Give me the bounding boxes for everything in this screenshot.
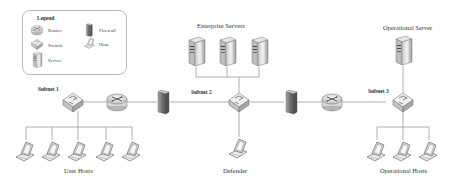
user-host-icon: [42, 142, 60, 161]
connection-lines: [26, 66, 429, 140]
subnet1-label: Subnet 1: [38, 86, 59, 92]
legend-box: Legend Router Switch Server Firewall Hos…: [22, 10, 127, 75]
user-host-icon: [68, 142, 86, 161]
server-icon: [33, 52, 42, 68]
firewall1-icon: [158, 90, 169, 114]
subnet3-label: Subnet 3: [368, 88, 389, 94]
enterprise-server-icon: [189, 37, 205, 66]
switch-icon: [32, 39, 43, 49]
subnet1-router-icon: [107, 94, 127, 111]
subnet3-switch-icon: [393, 93, 413, 112]
defender-host-icon: [229, 139, 247, 158]
operational-hosts-label: Operational Hosts: [380, 167, 427, 174]
legend-icons: [23, 11, 126, 74]
router-icon: [32, 26, 43, 35]
subnet1-switch-icon: [63, 93, 83, 112]
operational-server-icon: [396, 36, 412, 65]
legend-server-label: Server: [48, 58, 61, 63]
legend-router-label: Router: [48, 28, 62, 33]
legend-host-label: Host: [99, 42, 108, 47]
subnet2-switch-icon: [229, 93, 249, 112]
user-host-icon: [122, 142, 140, 161]
operational-host-icon: [393, 142, 411, 161]
firewall-icon: [86, 23, 92, 36]
operational-host-icon: [419, 142, 437, 161]
operational-host-icon: [367, 142, 385, 161]
enterprise-server-icon: [252, 37, 268, 66]
firewall2-icon: [286, 90, 297, 114]
legend-switch-label: Switch: [48, 43, 62, 48]
operational-server-label: Operational Server: [383, 24, 432, 31]
subnet2-label: Subnet 2: [191, 89, 212, 95]
user-hosts-label: User Hosts: [64, 167, 93, 174]
legend-firewall-label: Firewall: [99, 28, 116, 33]
host-icon: [85, 38, 95, 48]
user-host-icon: [96, 142, 114, 161]
enterprise-servers-label: Enterprise Servers: [197, 22, 245, 29]
subnet3-router-icon: [322, 94, 342, 111]
user-host-icon: [16, 142, 34, 161]
enterprise-server-icon: [220, 37, 236, 66]
defender-label: Defender: [223, 167, 247, 174]
